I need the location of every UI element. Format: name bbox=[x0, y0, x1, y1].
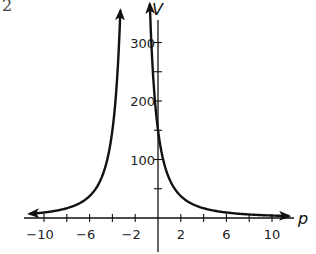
y-tick-label: 100 bbox=[130, 153, 155, 168]
curve-branches bbox=[29, 4, 289, 216]
x-tick-label: 6 bbox=[222, 227, 230, 242]
x-axis-title: p bbox=[297, 209, 308, 228]
graph: −10−6−22610100200300 p V bbox=[0, 0, 316, 254]
y-axis-title: V bbox=[152, 0, 164, 19]
right-branch-curve bbox=[150, 4, 289, 216]
x-tick-label: −10 bbox=[26, 227, 53, 242]
x-tick-label: 2 bbox=[177, 227, 185, 242]
x-tick-label: −2 bbox=[122, 227, 141, 242]
left-branch-curve bbox=[29, 10, 120, 214]
x-tick-label: −6 bbox=[76, 227, 95, 242]
y-tick-label: 200 bbox=[130, 94, 155, 109]
x-tick-label: 10 bbox=[264, 227, 281, 242]
